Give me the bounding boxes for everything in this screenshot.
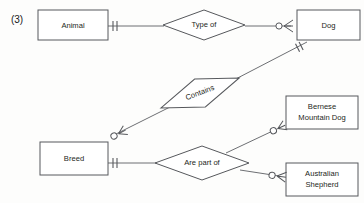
relationship-are-part-of-label: Are part of — [184, 158, 220, 167]
relationship-type-of-label: Type of — [192, 20, 218, 29]
entity-bernese-label-line1: Bernese — [308, 102, 336, 111]
entity-australian-label-line2: Shepherd — [306, 180, 339, 189]
cardinality-dog-zero-or-many — [276, 20, 293, 32]
connector-dog-breed-lower — [116, 105, 174, 134]
figure-number-label: (3) — [11, 14, 23, 25]
er-diagram-svg: Animal Dog Breed Bernese Mountain Dog Au… — [0, 0, 364, 203]
connector-dog-breed-upper — [228, 42, 307, 83]
cardinality-breed-contains-zero-or-many — [109, 126, 128, 142]
cardinality-australian-zero-or-many — [268, 170, 286, 182]
cardinality-dog-contains-one-and-only-one — [296, 42, 304, 52]
entity-animal-label: Animal — [61, 21, 85, 30]
entity-dog-label: Dog — [322, 21, 336, 30]
er-diagram-canvas: Animal Dog Breed Bernese Mountain Dog Au… — [0, 0, 364, 203]
entity-breed-label: Breed — [64, 154, 84, 163]
relationship-contains-group: Contains — [155, 64, 244, 122]
entity-australian-label-line1: Australian — [305, 169, 339, 178]
entity-bernese-label-line2: Mountain Dog — [298, 113, 345, 122]
